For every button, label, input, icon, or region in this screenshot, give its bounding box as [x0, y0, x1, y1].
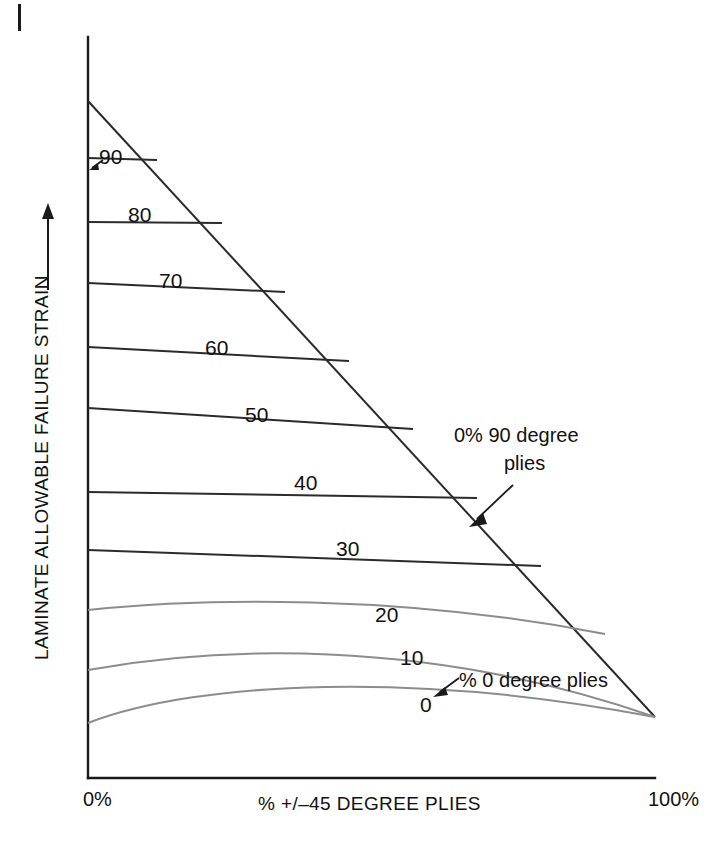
zero-90-degree-boundary-line — [88, 101, 655, 717]
contour-label-10: 10 — [400, 646, 423, 669]
contour-label-50: 50 — [245, 403, 268, 426]
carpet-plot-figure: 90 80 70 60 50 40 30 20 10 0 0% 90 degre… — [0, 0, 726, 853]
y-axis-labels: LAMINATE ALLOWABLE FAILURE STRAIN — [31, 203, 54, 660]
axis-group — [88, 37, 655, 778]
annotation-90-line2: plies — [504, 452, 545, 474]
contour-label-40: 40 — [294, 471, 317, 494]
y-axis-title: LAMINATE ALLOWABLE FAILURE STRAIN — [31, 275, 52, 660]
annotation-90-line1: 0% 90 degree — [454, 424, 579, 446]
annotation-0-text: % 0 degree plies — [459, 669, 608, 691]
contour-label-70: 70 — [159, 269, 182, 292]
y-axis-arrow-head — [42, 203, 54, 219]
annotation-90-arrowhead — [469, 513, 487, 527]
contour-label-30: 30 — [336, 537, 359, 560]
contour-line-20 — [88, 602, 605, 634]
x-axis-max-label: 100% — [648, 788, 699, 810]
contour-line-80 — [88, 222, 222, 223]
contour-line-40 — [88, 492, 477, 498]
page-margin-mark — [18, 4, 21, 31]
contour-label-60: 60 — [205, 336, 228, 359]
contour-labels: 90 80 70 60 50 40 30 20 10 0 — [99, 145, 432, 716]
contour-90-leader-arrowhead — [89, 164, 99, 170]
x-axis-labels: 0% 100% % +/–45 DEGREE PLIES — [83, 788, 699, 814]
x-axis-title: % +/–45 DEGREE PLIES — [258, 793, 481, 814]
annotation-zero-degree-plies: % 0 degree plies — [433, 669, 608, 697]
contour-label-0: 0 — [420, 693, 432, 716]
contour-label-20: 20 — [375, 603, 398, 626]
hypotenuse-boundary — [88, 101, 655, 717]
annotation-zero-90-degree-plies: 0% 90 degree plies — [454, 424, 579, 527]
contour-label-80: 80 — [128, 203, 151, 226]
contour-label-90: 90 — [99, 145, 122, 168]
contour-line-30 — [88, 550, 541, 566]
chart-canvas: 90 80 70 60 50 40 30 20 10 0 0% 90 degre… — [0, 0, 726, 853]
contour-line-0 — [88, 687, 655, 723]
x-axis-min-label: 0% — [83, 788, 112, 810]
